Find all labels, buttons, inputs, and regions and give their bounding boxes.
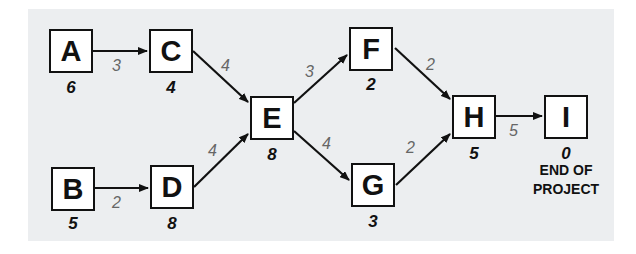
node-a-label: A: [61, 37, 82, 66]
edge-layer: [0, 0, 636, 254]
edge-c-e-label: 4: [221, 58, 230, 74]
node-i-label: I: [562, 103, 570, 132]
node-f: F: [349, 27, 393, 71]
node-d-label: D: [162, 173, 183, 202]
node-a: A: [49, 29, 93, 73]
node-f-label: F: [362, 35, 380, 64]
node-e-duration: 8: [250, 146, 294, 163]
node-b: B: [51, 167, 95, 211]
edge-g-h-label: 2: [406, 140, 415, 156]
node-h-label: H: [464, 103, 485, 132]
edge-f-h: [395, 48, 450, 99]
node-c: C: [149, 29, 193, 73]
node-a-duration: 6: [49, 79, 93, 96]
edge-h-i-label: 5: [509, 123, 518, 139]
node-g-duration: 3: [351, 213, 395, 230]
edge-d-e: [194, 134, 248, 187]
node-c-label: C: [161, 37, 182, 66]
node-g-label: G: [362, 171, 385, 200]
node-c-duration: 4: [149, 79, 193, 96]
edge-b-d-label: 2: [112, 195, 121, 211]
edge-e-f-label: 3: [305, 64, 314, 80]
node-e-label: E: [262, 104, 281, 133]
node-b-duration: 5: [51, 215, 95, 232]
edge-a-c-label: 3: [112, 58, 121, 74]
edge-d-e-label: 4: [208, 143, 217, 159]
node-b-label: B: [63, 175, 84, 204]
node-i: I: [544, 95, 588, 139]
node-d-duration: 8: [150, 215, 194, 232]
edge-g-h: [396, 134, 450, 185]
node-f-duration: 2: [349, 76, 393, 93]
note-line-2: PROJECT: [521, 180, 611, 199]
node-h: H: [452, 95, 496, 139]
edge-e-f: [294, 55, 347, 103]
note-line-1: END OF: [521, 161, 611, 180]
edge-e-g-label: 4: [322, 136, 331, 152]
node-i-duration: 0: [544, 145, 588, 162]
node-e: E: [250, 96, 294, 140]
edge-f-h-label: 2: [426, 57, 435, 73]
node-g: G: [351, 163, 395, 207]
node-d: D: [150, 165, 194, 209]
node-h-duration: 5: [452, 145, 496, 162]
end-of-project-note: END OF PROJECT: [521, 161, 611, 199]
